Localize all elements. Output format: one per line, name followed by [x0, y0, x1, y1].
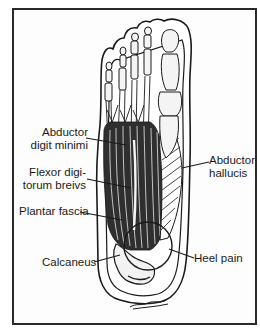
label-abductor-digiti-minimi: Abductor digit minimi — [28, 126, 88, 152]
label-line: torum breivs — [22, 179, 86, 192]
label-line: Abductor — [28, 126, 88, 139]
label-line: Flexor digi- — [22, 166, 86, 179]
label-calcaneus: Calcaneus — [42, 256, 96, 269]
label-text: Heel pain — [194, 252, 243, 264]
label-abductor-hallucis: Abductor hallucis — [209, 154, 255, 180]
label-line: hallucis — [209, 167, 255, 180]
label-line: Abductor — [209, 154, 255, 167]
label-text: Plantar fascia — [19, 205, 89, 217]
label-plantar-fascia: Plantar fascia — [19, 205, 89, 218]
label-heel-pain: Heel pain — [194, 252, 243, 265]
label-flexor-digitorum-brevis: Flexor digi- torum breivs — [22, 166, 86, 192]
label-line: digit minimi — [28, 139, 88, 152]
label-text: Calcaneus — [42, 256, 96, 268]
